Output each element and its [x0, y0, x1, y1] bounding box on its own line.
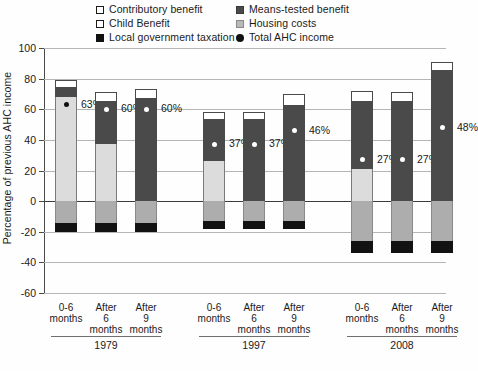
group-year-label: 2008: [347, 339, 457, 351]
segment-housing-costs: [431, 201, 453, 241]
chart-legend: Contributory benefit Child Benefit Local…: [96, 3, 426, 43]
segment-child-benefit: [351, 169, 373, 201]
x-axis-group-1997: 1997: [199, 336, 309, 360]
segment-local-government-taxation: [95, 223, 117, 232]
segment-local-government-taxation: [55, 223, 77, 232]
child-benefit-swatch-icon: [96, 20, 104, 28]
bar-2008-after-9-months[interactable]: [431, 48, 453, 293]
legend-item-contributory-benefit: Contributory benefit: [96, 3, 235, 16]
total-ahc-income-marker: [360, 157, 365, 162]
segment-means-tested-benefit: [135, 99, 157, 202]
total-ahc-income-marker: [292, 128, 297, 133]
segment-contributory-benefit: [135, 89, 157, 98]
segment-housing-costs: [243, 201, 265, 221]
total-ahc-income-marker: [104, 107, 109, 112]
segment-housing-costs: [351, 201, 373, 241]
bars-layer: 63%60%60%37%37%46%27%27%48%: [44, 48, 446, 293]
legend-label: Total AHC income: [249, 32, 334, 43]
segment-child-benefit: [55, 97, 77, 201]
legend-label: Housing costs: [249, 18, 316, 29]
bar-1979-0-6-months[interactable]: [55, 48, 77, 293]
legend-label: Child Benefit: [109, 18, 170, 29]
legend-label: Means-tested benefit: [249, 4, 349, 15]
total-ahc-income-marker: [400, 157, 405, 162]
housing-costs-swatch-icon: [236, 20, 244, 28]
y-tick-label: -40: [10, 257, 36, 267]
bar-1997-after-6-months[interactable]: [243, 48, 265, 293]
legend-item-total-ahc-income: Total AHC income: [236, 31, 349, 44]
y-axis-tick-labels: 100806040200-20-40-60: [8, 48, 36, 293]
segment-housing-costs: [391, 201, 413, 241]
segment-housing-costs: [55, 201, 77, 222]
local-government-taxation-swatch-icon: [96, 34, 104, 42]
data-label: 46%: [309, 125, 330, 135]
segment-means-tested-benefit: [55, 88, 77, 97]
segment-contributory-benefit: [391, 92, 413, 101]
means-tested-benefit-swatch-icon: [236, 6, 244, 14]
x-tick-label: After9months: [268, 302, 320, 335]
total-ahc-income-marker: [440, 125, 445, 130]
y-tick--60: [39, 293, 44, 294]
legend-item-housing-costs: Housing costs: [236, 17, 349, 30]
segment-housing-costs: [95, 201, 117, 222]
bar-1997-0-6-months[interactable]: [203, 48, 225, 293]
segment-means-tested-benefit: [391, 102, 413, 202]
segment-contributory-benefit: [283, 94, 305, 106]
bar-1997-after-9-months[interactable]: [283, 48, 305, 293]
segment-means-tested-benefit: [283, 106, 305, 201]
segment-child-benefit: [95, 144, 117, 201]
segment-local-government-taxation: [203, 221, 225, 229]
y-tick-label: 20: [10, 166, 36, 176]
segment-contributory-benefit: [351, 91, 373, 102]
segment-local-government-taxation: [283, 221, 305, 229]
total-ahc-income-marker: [252, 142, 257, 147]
x-axis-group-1979: 1979: [51, 336, 161, 360]
segment-contributory-benefit: [243, 112, 265, 120]
total-ahc-income-marker: [144, 107, 149, 112]
bar-1979-after-9-months[interactable]: [135, 48, 157, 293]
total-ahc-income-marker: [64, 102, 69, 107]
y-tick-label: 80: [10, 74, 36, 84]
x-axis-labels: 0-6monthsAfter6monthsAfter9months19790-6…: [44, 300, 446, 346]
x-tick-label: After9months: [120, 302, 172, 335]
total-ahc-income-dot-icon: [236, 34, 244, 42]
segment-local-government-taxation: [431, 241, 453, 253]
segment-means-tested-benefit: [243, 120, 265, 201]
legend-item-child-benefit: Child Benefit: [96, 17, 235, 30]
data-label: 60%: [161, 103, 182, 113]
segment-contributory-benefit: [55, 80, 77, 88]
y-tick-label: 40: [10, 135, 36, 145]
legend-label: Local government taxation: [109, 32, 235, 43]
legend-item-means-tested-benefit: Means-tested benefit: [236, 3, 349, 16]
legend-column-left: Contributory benefit Child Benefit Local…: [96, 3, 235, 45]
group-year-label: 1979: [51, 339, 161, 351]
y-tick-label: -20: [10, 227, 36, 237]
segment-housing-costs: [283, 201, 305, 221]
group-year-label: 1997: [199, 339, 309, 351]
y-tick-label: 100: [10, 43, 36, 53]
x-axis-group-2008: 2008: [347, 336, 457, 360]
segment-local-government-taxation: [391, 241, 413, 253]
legend-column-right: Means-tested benefit Housing costs Total…: [236, 3, 349, 45]
gridline--60: [44, 293, 446, 294]
segment-housing-costs: [135, 201, 157, 222]
data-label: 48%: [457, 122, 478, 132]
legend-label: Contributory benefit: [109, 4, 203, 15]
segment-local-government-taxation: [243, 221, 265, 229]
bar-1979-after-6-months[interactable]: [95, 48, 117, 293]
segment-housing-costs: [203, 201, 225, 221]
bar-2008-0-6-months[interactable]: [351, 48, 373, 293]
y-tick-label: 0: [10, 196, 36, 206]
segment-contributory-benefit: [431, 62, 453, 71]
legend-item-local-government-taxation: Local government taxation: [96, 31, 235, 44]
segment-means-tested-benefit: [431, 71, 453, 201]
segment-contributory-benefit: [203, 112, 225, 120]
segment-means-tested-benefit: [203, 120, 225, 161]
segment-local-government-taxation: [351, 241, 373, 253]
y-tick-label: 60: [10, 104, 36, 114]
group-rule: [347, 336, 457, 337]
group-rule: [199, 336, 309, 337]
segment-contributory-benefit: [95, 92, 117, 101]
bar-2008-after-6-months[interactable]: [391, 48, 413, 293]
